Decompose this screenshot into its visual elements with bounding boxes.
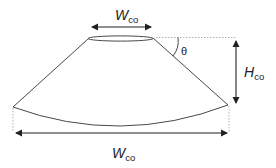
left-slant-edge [13,39,88,107]
top-width-label: Wco [115,7,138,25]
angle-label: θ [181,45,187,57]
top-ellipse [88,36,153,41]
bottom-width-label: Wco [112,145,135,163]
bottom-curve [13,105,228,126]
height-label: Hco [244,64,264,82]
angle-arc [173,38,178,57]
cone-shape [13,36,228,126]
right-slant-edge [153,38,228,105]
cone-diagram: Wco θ Hco Wco [0,0,276,168]
